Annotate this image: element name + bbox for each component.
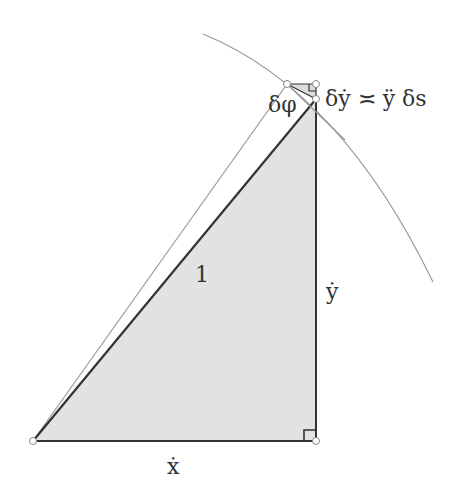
vertex-bottom-right (313, 438, 320, 445)
vertex-top (313, 96, 320, 103)
label-relation: δẏ ≍ ÿ δs (325, 86, 427, 111)
vertex-rotated (284, 81, 291, 88)
diagram: 1 ẋ ẏ δφ δẏ ≍ ÿ δs (0, 0, 461, 491)
vertex-corner (313, 81, 320, 88)
label-dphi: δφ (268, 92, 297, 117)
label-hypotenuse: 1 (195, 262, 209, 287)
label-xdot: ẋ (167, 454, 180, 479)
label-ydot: ẏ (325, 279, 339, 304)
vertex-origin (30, 438, 37, 445)
